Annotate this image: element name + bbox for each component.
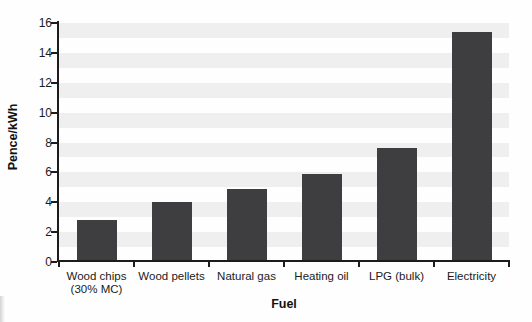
y-tick-label: 4: [0, 195, 52, 209]
grid-band: [59, 53, 509, 68]
y-tick-label: 14: [0, 46, 52, 60]
x-category-label: Heating oil: [284, 270, 359, 283]
x-category-label: Wood pellets: [134, 270, 209, 283]
x-tick-mark: [283, 262, 285, 267]
y-tick-label: 6: [0, 165, 52, 179]
x-axis-title: Fuel: [59, 297, 509, 311]
grid-band: [59, 232, 509, 247]
y-tick-label: 10: [0, 106, 52, 120]
bar-wood-pellets: [152, 202, 192, 262]
plot-area: [59, 23, 509, 262]
y-tick-label: 8: [0, 136, 52, 150]
x-category-label: Natural gas: [209, 270, 284, 283]
y-axis-line: [57, 21, 59, 262]
x-tick-mark: [208, 262, 210, 267]
y-tick-label: 2: [0, 225, 52, 239]
y-tick-label: 12: [0, 76, 52, 90]
x-tick-mark: [133, 262, 135, 267]
bar-wood-chips: [77, 220, 117, 262]
bar-lpg-bulk-: [377, 148, 417, 262]
y-tick-label: 0: [0, 255, 52, 269]
grid-band: [59, 113, 509, 128]
x-category-label: Wood chips (30% MC): [59, 270, 134, 296]
grid-band: [59, 83, 509, 98]
page-scan-artifact: [0, 296, 5, 322]
grid-band: [59, 143, 509, 158]
x-category-label: Electricity: [434, 270, 509, 283]
x-tick-mark: [58, 262, 60, 267]
x-tick-mark: [358, 262, 360, 267]
grid-band: [59, 23, 509, 38]
grid-band: [59, 202, 509, 217]
y-tick-label: 16: [0, 16, 52, 30]
chart-figure: Pence/kWh Fuel 0246810121416Wood chips (…: [0, 0, 532, 322]
x-category-label: LPG (bulk): [359, 270, 434, 283]
x-tick-mark: [508, 262, 510, 267]
bar-heating-oil: [302, 174, 342, 262]
x-tick-mark: [433, 262, 435, 267]
grid-band: [59, 172, 509, 187]
bar-natural-gas: [227, 189, 267, 262]
bar-electricity: [452, 32, 492, 262]
